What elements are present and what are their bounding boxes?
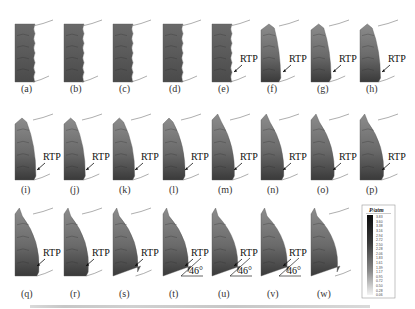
pressure-contour <box>163 208 191 276</box>
rtp-label: RTP <box>289 247 307 258</box>
pressure-contour <box>64 208 88 276</box>
rtp-label: RTP <box>92 247 110 258</box>
panel-label: (r) <box>70 288 80 300</box>
pressure-contour <box>15 118 36 180</box>
panel-label: (t) <box>169 288 178 300</box>
contour-panel: (c) <box>113 20 151 95</box>
colorbar-tick-label: 0.95 <box>376 275 383 279</box>
contour-panel: (h)RTP <box>360 20 406 95</box>
colorbar-tick-label: 0.06 <box>376 293 383 297</box>
pressure-contour <box>311 208 340 276</box>
colorbar-tick-label: 0.72 <box>376 279 383 283</box>
pressure-contour <box>311 114 334 180</box>
pressure-contour <box>261 24 281 82</box>
pressure-contour <box>64 118 85 180</box>
wall-lower <box>379 76 395 82</box>
colorbar-tick-label: 3.38 <box>376 224 383 228</box>
panel-label: (l) <box>169 184 178 196</box>
wall-upper <box>181 20 201 26</box>
rtp-label: RTP <box>191 247 209 258</box>
pressure-contour <box>113 118 135 180</box>
colorbar-tick-label: 1.39 <box>376 266 383 270</box>
wall-lower <box>83 174 99 180</box>
angle-label: 46° <box>287 265 301 276</box>
rtp-label: RTP <box>339 151 357 162</box>
colorbar-tick-label: 3.60 <box>376 220 383 224</box>
rtp-label: RTP <box>191 151 209 162</box>
contour-panel: (v)RTP46° <box>261 208 307 300</box>
pressure-contour <box>113 24 133 82</box>
wall-lower <box>332 174 348 180</box>
colorbar-gradient <box>367 215 373 295</box>
contour-panel: (g)RTP <box>311 20 357 95</box>
pressure-contour <box>360 24 381 82</box>
contour-panel: (l)RTP <box>163 114 209 196</box>
colorbar-tick-label: 0.50 <box>376 284 383 288</box>
wall-upper <box>82 114 102 120</box>
panel-label: (q) <box>21 288 33 300</box>
wall-lower <box>282 174 298 180</box>
pressure-contour <box>261 208 290 276</box>
pressure-contour <box>113 208 141 276</box>
wall-upper <box>230 20 250 26</box>
wall-lower <box>183 174 199 180</box>
panel-label: (s) <box>119 288 130 300</box>
wall-upper <box>329 20 349 26</box>
colorbar-tick-label: 2.06 <box>376 252 383 256</box>
rtp-label: RTP <box>141 247 159 258</box>
pressure-contour <box>212 208 240 276</box>
panel-label: (h) <box>366 83 378 95</box>
colorbar-tick-label: 3.16 <box>376 229 383 233</box>
wall-upper <box>131 20 151 26</box>
pressure-contour <box>15 24 35 82</box>
contour-panel: (o)RTP <box>311 114 357 196</box>
wall-lower <box>86 270 102 276</box>
wall-upper <box>181 114 201 120</box>
rtp-label: RTP <box>388 53 406 64</box>
rtp-label: RTP <box>289 151 307 162</box>
panels-group: (a)(b)(c)(d)(e)RTP(f)RTP(g)RTP(h)RTP(i)R… <box>15 20 406 300</box>
contour-panel: (w) <box>311 208 351 300</box>
pressure-contour <box>212 114 234 180</box>
contour-panel: (i)RTP <box>15 114 61 196</box>
wall-upper <box>82 208 102 214</box>
panel-label: (w) <box>317 288 331 300</box>
rtp-label: RTP <box>43 151 61 162</box>
panel-label: (k) <box>119 184 131 196</box>
contour-panel: (t)RTP46° <box>163 208 209 300</box>
panel-label: (o) <box>317 184 329 196</box>
panel-label: (d) <box>169 83 181 95</box>
wall-lower <box>82 76 98 82</box>
wall-upper <box>131 208 151 214</box>
wall-lower <box>232 174 248 180</box>
wall-upper <box>279 20 299 26</box>
panel-label: (b) <box>70 83 82 95</box>
pressure-contour <box>163 118 185 180</box>
wall-upper <box>279 114 299 120</box>
colorbar-ticks: 3.833.603.383.162.942.722.502.282.061.83… <box>376 215 383 297</box>
contour-panel: (u)RTP46° <box>212 208 258 300</box>
panel-label: (a) <box>21 83 32 95</box>
wall-upper <box>230 114 250 120</box>
pressure-contour <box>64 24 84 82</box>
panel-label: (n) <box>267 184 279 196</box>
wall-lower <box>131 76 147 82</box>
rtp-label: RTP <box>240 53 258 64</box>
rtp-label: RTP <box>339 53 357 64</box>
wall-lower <box>133 174 149 180</box>
colorbar-tick-label: 2.72 <box>376 238 383 242</box>
panel-label: (i) <box>21 184 30 196</box>
wall-lower <box>181 76 197 82</box>
panel-label: (e) <box>218 83 229 95</box>
contour-panel: (b) <box>64 20 102 95</box>
wall-upper <box>33 114 53 120</box>
pressure-contour <box>212 24 232 82</box>
pressure-contour <box>261 114 284 180</box>
contour-panel: (p)RTP <box>360 114 406 196</box>
contour-panel: (r)RTP <box>64 208 110 300</box>
colorbar-tick-label: 2.28 <box>376 247 383 251</box>
wall-lower <box>279 76 295 82</box>
panel-label: (u) <box>218 288 230 300</box>
panel-label: (c) <box>119 83 130 95</box>
contour-panel: (f)RTP <box>261 20 307 95</box>
